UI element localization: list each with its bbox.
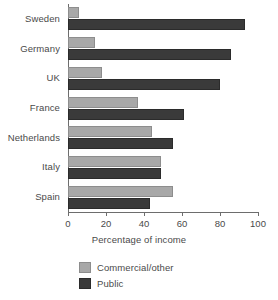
x-tick-60: [182, 212, 183, 216]
x-tick-label-80: 80: [205, 218, 235, 229]
x-tick-0: [68, 212, 69, 216]
x-tick-label-60: 60: [167, 218, 197, 229]
bar-uk-public: [68, 79, 220, 90]
category-label-france: France: [0, 103, 60, 113]
category-axis-labels: SwedenGermanyUKFranceNetherlandsItalySpa…: [0, 0, 64, 212]
bar-italy-commercial: [68, 156, 161, 167]
bar-italy-public: [68, 168, 161, 179]
x-tick-20: [106, 212, 107, 216]
x-tick-label-20: 20: [91, 218, 121, 229]
legend-item-commercial: Commercial/other: [79, 260, 174, 274]
bar-sweden-commercial: [68, 7, 79, 18]
x-tick-label-40: 40: [129, 218, 159, 229]
chart-legend: Commercial/other Public: [79, 260, 174, 292]
x-tick-label-100: 100: [243, 218, 273, 229]
x-tick-80: [220, 212, 221, 216]
bar-sweden-public: [68, 19, 245, 30]
plot-area: [68, 4, 258, 212]
bar-netherlands-commercial: [68, 126, 152, 137]
bar-germany-commercial: [68, 37, 95, 48]
legend-swatch-commercial-icon: [79, 262, 91, 273]
category-label-uk: UK: [0, 73, 60, 83]
legend-label-public: Public: [97, 278, 123, 289]
x-axis-line: [68, 212, 258, 213]
bar-spain-commercial: [68, 186, 173, 197]
category-label-italy: Italy: [0, 162, 60, 172]
bar-uk-commercial: [68, 67, 102, 78]
x-tick-40: [144, 212, 145, 216]
category-label-sweden: Sweden: [0, 14, 60, 24]
legend-swatch-public-icon: [79, 278, 91, 289]
category-label-spain: Spain: [0, 192, 60, 202]
bar-germany-public: [68, 49, 231, 60]
bar-france-public: [68, 109, 184, 120]
bar-netherlands-public: [68, 138, 173, 149]
bar-france-commercial: [68, 97, 138, 108]
x-tick-label-0: 0: [53, 218, 83, 229]
category-label-netherlands: Netherlands: [0, 133, 60, 143]
x-axis-title: Percentage of income: [0, 234, 278, 245]
legend-label-commercial: Commercial/other: [97, 262, 174, 273]
category-label-germany: Germany: [0, 44, 60, 54]
bar-spain-public: [68, 198, 150, 209]
bar-chart: SwedenGermanyUKFranceNetherlandsItalySpa…: [0, 0, 278, 300]
x-tick-100: [258, 212, 259, 216]
legend-item-public: Public: [79, 276, 174, 290]
